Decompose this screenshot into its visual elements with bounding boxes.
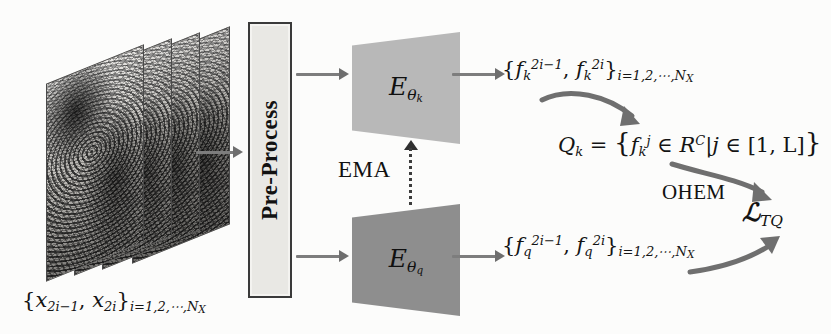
- fk-range: i=1,2,⋯,N: [618, 68, 686, 83]
- ohem-label: OHEM: [662, 180, 725, 205]
- fk-sup-2: 2i: [592, 57, 604, 72]
- arrow-key-features-to-queue: [536, 88, 666, 136]
- caption-term1: x: [35, 288, 47, 312]
- arrow-input-to-preprocess: [196, 146, 244, 158]
- caption-range-tail: X: [198, 303, 205, 315]
- fk-comma: ,: [563, 57, 576, 81]
- caption-open-brace: {: [22, 288, 35, 312]
- encoder-query-label: Eθq: [389, 244, 423, 277]
- caption-close-brace: }: [117, 288, 130, 312]
- encoder-key-subsub: k: [417, 92, 423, 104]
- queue-space: R: [679, 133, 695, 157]
- fq-sub-1: q: [523, 244, 531, 259]
- fk-open-brace: {: [502, 57, 515, 81]
- fk-symbol-1: f: [515, 57, 523, 81]
- fq-symbol-1: f: [515, 233, 523, 257]
- loss-script-l: ℒ: [742, 198, 760, 227]
- fingerprint-image-stack: [40, 48, 230, 278]
- queue-space-sup: C: [695, 133, 705, 148]
- arrow-preprocess-to-encoder-key: [296, 68, 350, 80]
- fq-comma: ,: [563, 233, 576, 257]
- encoder-key-theta: θ: [407, 86, 416, 104]
- fk-sub-2: k: [584, 68, 592, 83]
- arrow-encoder-query-to-features: [452, 250, 506, 262]
- queue-name: Q: [558, 133, 575, 157]
- encoder-query-subsub: q: [416, 264, 423, 276]
- ema-dotted-arrow: [404, 140, 418, 208]
- fingerprint-sheet: [46, 44, 144, 282]
- caption-range: i=1,2,⋯,N: [130, 299, 198, 314]
- fk-range-tail: X: [686, 72, 693, 84]
- encoder-key[interactable]: Eθk: [352, 32, 460, 144]
- caption-term2: x: [92, 288, 104, 312]
- fq-range: i=1,2,⋯,N: [618, 244, 686, 259]
- queue-f: f: [631, 133, 639, 157]
- encoder-query-symbol: E: [389, 244, 407, 273]
- fq-sup-1: 2i−1: [532, 233, 564, 248]
- loss-symbol: ℒTQ: [742, 200, 783, 229]
- caption-term2-sub: 2i: [104, 299, 116, 314]
- queue-equals: =: [583, 133, 614, 157]
- fk-sup-1: 2i−1: [531, 57, 563, 72]
- ema-label: EMA: [338, 157, 391, 183]
- queue-close-brace: }: [805, 128, 822, 158]
- queue-open-brace: {: [614, 128, 631, 158]
- input-caption: {x2i−1, x2i}i=1,2,⋯,NX: [22, 290, 206, 314]
- fk-sub-1: k: [523, 68, 531, 83]
- encoder-query-theta: θ: [407, 258, 416, 276]
- preprocess-block[interactable]: Pre-Process: [248, 22, 292, 298]
- encoder-key-symbol: E: [389, 72, 407, 101]
- preprocess-label: Pre-Process: [257, 100, 283, 220]
- diagram-canvas: {x2i−1, x2i}i=1,2,⋯,NX Pre-Process Eθk E…: [0, 0, 831, 334]
- fk-symbol-2: f: [576, 57, 584, 81]
- queue-in-1: ∈: [650, 133, 679, 157]
- encoder-key-label: Eθk: [389, 72, 423, 105]
- ema-dotted-line: [409, 148, 412, 208]
- fq-sup-2: 2i: [593, 233, 605, 248]
- fq-close-brace: }: [605, 233, 618, 257]
- fk-close-brace: }: [604, 57, 617, 81]
- fq-open-brace: {: [502, 233, 515, 257]
- arrow-preprocess-to-encoder-query: [296, 250, 350, 262]
- caption-comma: ,: [79, 288, 92, 312]
- queue-interval: [1, L]: [748, 133, 805, 157]
- query-feature-set: {fq2i−1, fq2i}i=1,2,⋯,NX: [502, 234, 694, 259]
- queue-name-sub: k: [575, 144, 583, 159]
- caption-term1-sub: 2i−1: [47, 299, 79, 314]
- loss-subscript: TQ: [760, 212, 783, 230]
- fq-sub-2: q: [584, 244, 592, 259]
- arrow-query-features-to-loss: [686, 236, 796, 284]
- queue-definition: Qk = {fkj ∈ RC|j ∈ [1, L]}: [558, 130, 821, 158]
- key-feature-set: {fk2i−1, fk2i}i=1,2,⋯,NX: [502, 58, 693, 83]
- encoder-query[interactable]: Eθq: [352, 204, 460, 316]
- arrow-encoder-key-to-features: [452, 68, 506, 80]
- queue-in-2: ∈: [719, 133, 748, 157]
